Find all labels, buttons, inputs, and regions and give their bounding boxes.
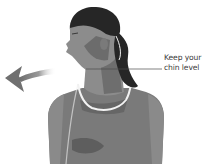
annotation-line-1: Keep your (164, 53, 201, 63)
curved-arrow-left-icon (5, 66, 56, 92)
exercise-illustration: Keep your chin level (0, 0, 203, 164)
torso (48, 84, 164, 164)
figure-drawing (0, 0, 203, 164)
annotation-line-2: chin level (164, 63, 201, 73)
annotation-label: Keep your chin level (164, 53, 201, 72)
